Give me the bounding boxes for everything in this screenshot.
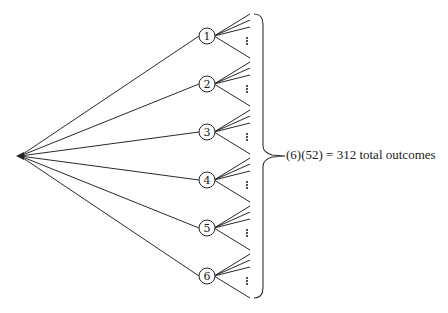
node-label: 1 xyxy=(204,30,211,43)
sub-branch-edge xyxy=(214,180,250,202)
sub-branch-edge xyxy=(214,228,250,250)
sub-branch-edge xyxy=(214,84,250,106)
sub-branch-edge xyxy=(214,36,250,58)
outcome-node-5: 5 xyxy=(199,220,215,236)
node-label: 5 xyxy=(204,222,211,235)
total-outcomes-caption: (6)(52) = 312 total outcomes xyxy=(286,147,436,163)
node-label: 4 xyxy=(204,174,211,187)
vertical-ellipsis-icon xyxy=(246,277,248,285)
branch-edge-6 xyxy=(20,156,199,276)
sub-branch-edge xyxy=(214,158,250,180)
root-node-icon xyxy=(16,152,24,160)
sub-branch-edge xyxy=(214,14,250,36)
sub-branch-edge xyxy=(214,254,250,276)
outcome-node-4: 4 xyxy=(199,172,215,188)
branch-edge-1 xyxy=(20,36,199,156)
outcome-node-1: 1 xyxy=(199,28,215,44)
sub-branch-edge xyxy=(214,132,250,154)
vertical-ellipsis-icon xyxy=(246,85,248,93)
tree-diagram: 123456 (6)(52) = 312 total outcomes xyxy=(0,0,448,313)
node-label: 6 xyxy=(204,270,211,283)
branch-edge-5 xyxy=(20,156,199,228)
node-label: 3 xyxy=(204,126,211,139)
tree-edges xyxy=(20,14,250,298)
vertical-ellipsis-icon xyxy=(246,229,248,237)
branch-edge-3 xyxy=(20,132,199,156)
sub-branch-edge xyxy=(214,206,250,228)
vertical-ellipsis-icon xyxy=(246,133,248,141)
curly-brace xyxy=(254,14,285,298)
sub-branch-edge xyxy=(214,276,250,298)
tree-nodes: 123456 xyxy=(199,28,215,284)
branch-edge-4 xyxy=(20,156,199,180)
node-label: 2 xyxy=(204,78,211,91)
sub-branch-edge xyxy=(214,110,250,132)
vertical-ellipsis-icon xyxy=(246,181,248,189)
branch-edge-2 xyxy=(20,84,199,156)
vertical-ellipsis-icon xyxy=(246,37,248,45)
sub-branch-edge xyxy=(214,62,250,84)
outcome-node-6: 6 xyxy=(199,268,215,284)
outcome-node-3: 3 xyxy=(199,124,215,140)
outcome-node-2: 2 xyxy=(199,76,215,92)
